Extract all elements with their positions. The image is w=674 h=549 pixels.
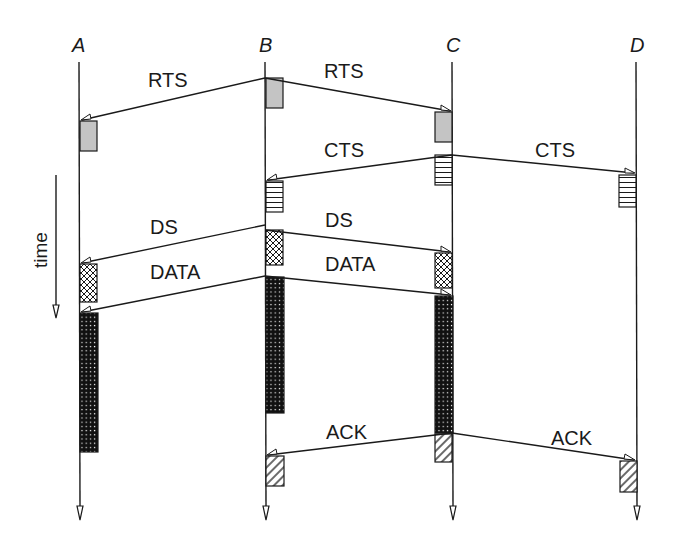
frame-ds-b bbox=[266, 230, 283, 265]
time-axis: time bbox=[30, 175, 59, 318]
label-data-b-c: DATA bbox=[325, 253, 376, 275]
frame-cts-b bbox=[266, 181, 283, 212]
message-rts-b-c bbox=[265, 78, 451, 111]
frame-ack-b bbox=[266, 456, 284, 486]
label-ds-b-c: DS bbox=[325, 209, 353, 231]
lifeline-d bbox=[634, 62, 640, 520]
frame-ack-d bbox=[620, 461, 637, 492]
label-ds-b-a: DS bbox=[150, 216, 178, 238]
frame-ds-c bbox=[435, 253, 452, 288]
arrowhead-icon bbox=[267, 449, 277, 455]
arrowhead-icon bbox=[624, 454, 635, 460]
station-label-a: A bbox=[71, 34, 85, 56]
arrow-down-icon bbox=[77, 506, 83, 520]
frame-cts-c bbox=[435, 155, 452, 185]
arrowhead-icon bbox=[441, 105, 451, 111]
arrowhead-icon bbox=[441, 289, 451, 295]
station-label-b: B bbox=[259, 34, 272, 56]
arrowhead-icon bbox=[81, 114, 91, 120]
arrowhead-icon bbox=[81, 257, 91, 263]
arrow-down-icon bbox=[634, 506, 640, 520]
label-ack-c-d: ACK bbox=[551, 427, 593, 449]
arrowhead-icon bbox=[81, 306, 91, 312]
timing-diagram: A B C D time bbox=[0, 0, 674, 549]
time-label: time bbox=[30, 232, 51, 268]
arrowhead-icon bbox=[267, 174, 277, 180]
label-cts-c-d: CTS bbox=[535, 139, 575, 161]
label-rts-b-c: RTS bbox=[324, 60, 364, 82]
frame-data-b bbox=[266, 277, 284, 413]
frame-ds-a bbox=[80, 264, 97, 302]
frame-rts-b bbox=[266, 78, 283, 108]
label-ack-c-b: ACK bbox=[326, 421, 368, 443]
station-label-c: C bbox=[446, 34, 461, 56]
label-data-b-a: DATA bbox=[150, 261, 201, 283]
arrowhead-icon bbox=[625, 168, 635, 173]
frame-cts-d bbox=[619, 175, 636, 207]
arrowhead-icon bbox=[441, 246, 451, 252]
frame-data-c bbox=[435, 296, 453, 433]
message-ds-b-c bbox=[265, 230, 451, 252]
frame-rts-c bbox=[435, 112, 452, 142]
label-rts-b-a: RTS bbox=[148, 69, 188, 91]
frame-rts-a bbox=[80, 121, 97, 151]
message-data-b-c bbox=[265, 276, 451, 295]
frame-ack-c bbox=[435, 434, 452, 462]
frame-data-a bbox=[80, 313, 98, 452]
arrow-down-icon bbox=[53, 305, 59, 318]
station-label-d: D bbox=[630, 34, 644, 56]
message-ack-c-d bbox=[452, 433, 635, 460]
label-cts-c-b: CTS bbox=[324, 139, 364, 161]
arrow-down-icon bbox=[263, 506, 269, 520]
arrow-down-icon bbox=[450, 506, 456, 520]
